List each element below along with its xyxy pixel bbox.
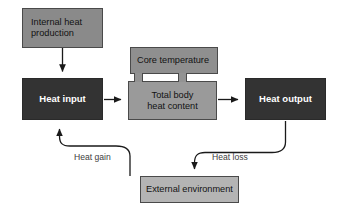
node-heat-output[interactable]: Heat output [245,78,326,120]
node-heat-output-label: Heat output [246,93,325,104]
node-internal-heat-production-label: Internal heat production [31,17,98,39]
diagram-canvas: Internal heat production Heat input Core… [0,0,341,214]
connector-stub-right [178,73,187,82]
node-total-body-heat-content[interactable]: Total body heat content [128,81,217,120]
node-external-environment[interactable]: External environment [140,176,239,203]
edge-label-heat-gain: Heat gain [74,152,111,162]
node-external-environment-label: External environment [141,184,238,195]
node-total-body-heat-content-label: Total body heat content [133,90,212,112]
edge-label-heat-loss: Heat loss [212,152,248,162]
node-core-temperature[interactable]: Core temperature [130,47,218,74]
node-internal-heat-production[interactable]: Internal heat production [22,8,103,48]
node-core-temperature-label: Core temperature [137,55,213,66]
node-heat-input-label: Heat input [23,93,102,104]
node-heat-input[interactable]: Heat input [22,78,103,120]
connector-stub-left [134,73,143,82]
